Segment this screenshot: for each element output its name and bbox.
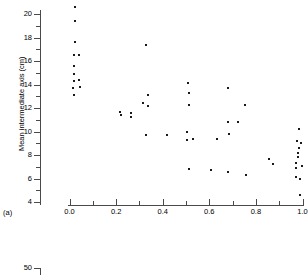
scatter-point bbox=[74, 20, 76, 22]
figure: 468101214161820 0.00.20.40.60.81.0 Mean … bbox=[0, 0, 308, 275]
scatter-point bbox=[210, 169, 212, 171]
y-tick-minor bbox=[36, 73, 40, 74]
scatter-point bbox=[74, 6, 76, 8]
y-tick-label: 6 bbox=[10, 175, 32, 183]
y-tick-major bbox=[34, 85, 40, 86]
x-tick-minor bbox=[233, 201, 234, 205]
scatter-point bbox=[73, 65, 75, 67]
scatter-point bbox=[268, 158, 270, 160]
scatter-point bbox=[74, 41, 76, 43]
scatter-point bbox=[227, 171, 229, 173]
scatter-point bbox=[300, 142, 302, 144]
scatter-point bbox=[78, 54, 80, 56]
scatter-point bbox=[78, 79, 80, 81]
scatter-point bbox=[119, 111, 121, 113]
scatter-point bbox=[216, 138, 218, 140]
scatter-point bbox=[145, 44, 147, 46]
scatter-point bbox=[186, 131, 188, 133]
scatter-point bbox=[237, 121, 239, 123]
x-tick-major bbox=[303, 199, 304, 205]
scatter-plot-panel-b-partial: 50 bbox=[0, 215, 308, 275]
y-tick-major bbox=[34, 38, 40, 39]
x-tick-major bbox=[256, 199, 257, 205]
panel-b-y-tick-label: 50 bbox=[12, 264, 32, 272]
y-tick-major bbox=[34, 108, 40, 109]
scatter-point bbox=[187, 82, 189, 84]
x-tick-minor bbox=[139, 201, 140, 205]
scatter-point bbox=[244, 104, 246, 106]
scatter-point bbox=[298, 128, 300, 130]
y-tick-label: 20 bbox=[10, 10, 32, 18]
y-tick-minor bbox=[36, 26, 40, 27]
scatter-point bbox=[299, 194, 301, 196]
y-tick-major bbox=[34, 14, 40, 15]
scatter-point bbox=[147, 94, 149, 96]
scatter-point bbox=[298, 147, 300, 149]
scatter-point bbox=[73, 80, 75, 82]
y-axis-title: Mean intermediate axis (cm) bbox=[18, 34, 26, 174]
y-tick-minor bbox=[36, 49, 40, 50]
y-tick-major bbox=[34, 155, 40, 156]
y-tick-minor bbox=[36, 167, 40, 168]
x-tick-major bbox=[163, 199, 164, 205]
scatter-point bbox=[186, 139, 188, 141]
scatter-point bbox=[145, 134, 147, 136]
x-tick-major bbox=[70, 199, 71, 205]
scatter-point bbox=[227, 87, 229, 89]
scatter-point bbox=[79, 86, 81, 88]
x-tick-major bbox=[116, 199, 117, 205]
scatter-point bbox=[295, 176, 297, 178]
scatter-point bbox=[301, 165, 303, 167]
y-tick-minor bbox=[36, 96, 40, 97]
scatter-point bbox=[166, 134, 168, 136]
y-tick-minor bbox=[36, 120, 40, 121]
y-axis-line bbox=[40, 10, 41, 205]
scatter-point bbox=[272, 163, 274, 165]
y-tick-minor bbox=[36, 190, 40, 191]
y-tick-major bbox=[34, 179, 40, 180]
y-tick-minor bbox=[36, 143, 40, 144]
x-tick-minor bbox=[93, 201, 94, 205]
scatter-point bbox=[297, 156, 299, 158]
scatter-point bbox=[295, 167, 297, 169]
scatter-point bbox=[130, 112, 132, 114]
scatter-point bbox=[188, 168, 190, 170]
scatter-point bbox=[147, 105, 149, 107]
scatter-point bbox=[299, 178, 301, 180]
scatter-point bbox=[142, 102, 144, 104]
x-tick-minor bbox=[279, 201, 280, 205]
scatter-point bbox=[188, 92, 190, 94]
scatter-point bbox=[192, 138, 194, 140]
scatter-point bbox=[73, 54, 75, 56]
scatter-point bbox=[297, 152, 299, 154]
scatter-point bbox=[228, 133, 230, 135]
scatter-point bbox=[72, 87, 74, 89]
scatter-point bbox=[130, 116, 132, 118]
scatter-point bbox=[73, 94, 75, 96]
x-tick-major bbox=[209, 199, 210, 205]
scatter-point bbox=[295, 162, 297, 164]
scatter-point bbox=[296, 140, 298, 142]
y-tick-major bbox=[34, 61, 40, 62]
scatter-point bbox=[245, 174, 247, 176]
scatter-point bbox=[73, 73, 75, 75]
y-tick-major bbox=[34, 202, 40, 203]
panel-b-y-tick bbox=[34, 268, 40, 269]
y-tick-major bbox=[34, 132, 40, 133]
x-axis-line bbox=[68, 205, 304, 206]
x-tick-minor bbox=[186, 201, 187, 205]
panel-b-y-axis-line bbox=[40, 268, 41, 275]
scatter-point bbox=[227, 121, 229, 123]
scatter-point bbox=[188, 104, 190, 106]
scatter-point bbox=[120, 114, 122, 116]
scatter-plot-panel-a: 468101214161820 0.00.20.40.60.81.0 Mean … bbox=[0, 0, 308, 215]
y-tick-label: 4 bbox=[10, 198, 32, 206]
